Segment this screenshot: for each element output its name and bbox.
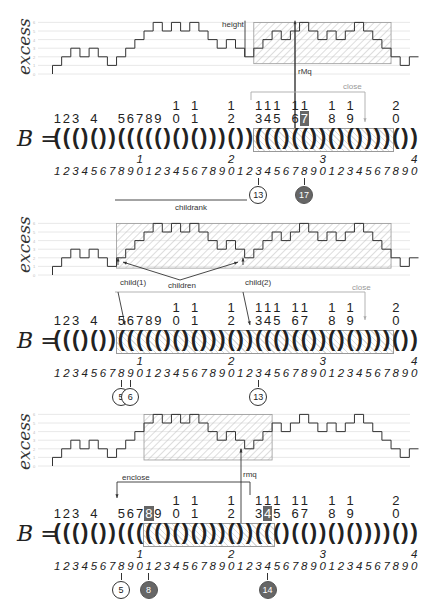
node-label: 1	[190, 313, 200, 328]
index-unit: 9	[309, 560, 319, 572]
index-tens: 4	[409, 153, 419, 165]
index-unit: 6	[190, 560, 200, 572]
node-label: 4	[89, 111, 99, 126]
index-unit: 1	[53, 560, 63, 572]
index-tens: 4	[409, 355, 419, 367]
index-unit: 8	[208, 165, 218, 177]
paren: )	[208, 519, 218, 545]
index-unit: 3	[254, 165, 264, 177]
index-unit: 1	[327, 367, 337, 379]
node-label: 7	[135, 111, 145, 126]
index-unit: 3	[71, 165, 81, 177]
index-unit: 0	[226, 367, 236, 379]
index-unit: 7	[290, 165, 300, 177]
svg-text:4: 4	[33, 38, 36, 43]
paren: )	[245, 326, 255, 352]
index-tens: 3	[318, 548, 328, 560]
index-unit: 1	[53, 165, 63, 177]
paren: )	[245, 519, 255, 545]
paren: (	[135, 326, 145, 352]
index-unit: 7	[199, 165, 209, 177]
svg-text:3: 3	[33, 46, 36, 51]
node-label: 0	[171, 506, 181, 521]
pointer-arrow	[121, 573, 122, 580]
panel-enclose: excess 0123456 enclose rmq B = ((()())((…	[0, 395, 425, 605]
paren: (	[89, 326, 99, 352]
node-label: 7	[300, 111, 310, 126]
excess-plot-2: 0123456	[0, 195, 425, 285]
paren: )	[336, 326, 346, 352]
paren: (	[254, 124, 264, 150]
symbol-b: B	[17, 126, 33, 151]
paren: )	[373, 519, 383, 545]
node-label: 7	[300, 506, 310, 521]
paren: (	[153, 519, 163, 545]
node-label: 1	[53, 313, 63, 328]
paren: )	[318, 124, 328, 150]
index-unit: 8	[117, 560, 127, 572]
rmq-label: rMq	[298, 67, 312, 76]
paren: (	[89, 124, 99, 150]
paren: )	[309, 519, 319, 545]
paren: )	[281, 326, 291, 352]
node-label: 4	[89, 506, 99, 521]
node-label: 8	[144, 313, 154, 328]
index-unit: 6	[98, 165, 108, 177]
node-label: 4	[263, 506, 273, 521]
node-label: 5	[272, 111, 282, 126]
index-unit: 9	[217, 560, 227, 572]
paren: (	[144, 519, 154, 545]
paren: (	[117, 124, 127, 150]
svg-text:3: 3	[33, 247, 36, 252]
paren: (	[190, 519, 200, 545]
panel-rmq: excess 0123456 height rMq close B = ((()…	[0, 0, 425, 195]
rmq-label: rmq	[243, 470, 257, 479]
panel-children: excess 0123456 childrank children child(…	[0, 195, 425, 395]
index-tens: 4	[409, 548, 419, 560]
paren: )	[236, 124, 246, 150]
paren: (	[71, 326, 81, 352]
node-label: 9	[345, 506, 355, 521]
svg-text:4: 4	[33, 239, 36, 244]
paren: (	[171, 519, 181, 545]
index-unit: 3	[345, 367, 355, 379]
paren: (	[254, 519, 264, 545]
paren: (	[300, 124, 310, 150]
paren: )	[382, 124, 392, 150]
node-label: 0	[391, 506, 401, 521]
index-unit: 1	[144, 560, 154, 572]
index-unit: 6	[373, 165, 383, 177]
paren: )	[208, 326, 218, 352]
paren: (	[89, 519, 99, 545]
node-label: 1	[190, 111, 200, 126]
index-unit: 9	[309, 165, 319, 177]
index-unit: 5	[272, 560, 282, 572]
paren: )	[199, 519, 209, 545]
paren: (	[62, 519, 72, 545]
node-label: 2	[62, 313, 72, 328]
paren: (	[300, 326, 310, 352]
index-unit: 1	[236, 367, 246, 379]
index-unit: 3	[71, 560, 81, 572]
svg-text:1: 1	[33, 63, 36, 68]
index-unit: 6	[281, 560, 291, 572]
paren: )	[107, 124, 117, 150]
svg-text:0: 0	[33, 464, 36, 469]
node-label: 9	[153, 506, 163, 521]
paren: (	[226, 124, 236, 150]
paren: )	[181, 124, 191, 150]
node-label: 2	[226, 506, 236, 521]
paren: (	[226, 519, 236, 545]
paren: )	[373, 124, 383, 150]
index-unit: 2	[153, 560, 163, 572]
svg-text:4: 4	[33, 430, 36, 435]
paren: )	[236, 519, 246, 545]
paren: (	[345, 326, 355, 352]
paren: )	[245, 124, 255, 150]
node-label: 4	[263, 313, 273, 328]
index-unit: 4	[354, 560, 364, 572]
index-unit: 9	[400, 165, 410, 177]
index-unit: 9	[126, 367, 136, 379]
index-unit: 5	[364, 165, 374, 177]
index-unit: 7	[199, 367, 209, 379]
